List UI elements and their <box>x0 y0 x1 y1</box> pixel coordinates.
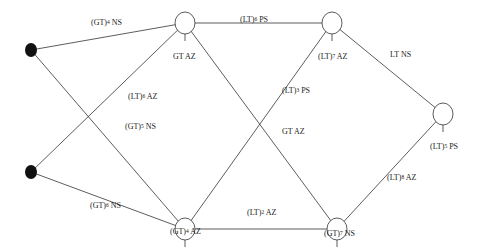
edge-label-d-e: (LT)8 AZ <box>387 173 416 183</box>
node-label-e: (LT)5 PS <box>430 142 458 152</box>
edge-label-b-c: (LT)3 PS <box>282 86 310 96</box>
edge-d-e <box>337 114 443 229</box>
edge-label-c-e: LT NS <box>390 50 411 60</box>
edge-label-s1-a: (GT)4 NS <box>91 18 122 28</box>
edge-b-c <box>185 23 332 229</box>
state-node-e <box>433 103 453 125</box>
node-label-d: (GT)7 NS <box>324 229 355 239</box>
node-label-a: GT AZ <box>173 52 196 62</box>
graph-canvas <box>0 0 477 249</box>
edge-label-a-d: GT AZ <box>282 127 305 137</box>
edge-label-b-d: (LT)2 AZ <box>247 208 276 218</box>
edge-c-e <box>332 23 443 114</box>
edge-a-d <box>185 23 337 229</box>
node-label-c: (LT)7 AZ <box>318 52 347 62</box>
state-node-a <box>175 12 195 34</box>
node-label-b: (GT)4 AZ <box>170 227 201 237</box>
source-node-2 <box>25 165 37 179</box>
source-node-1 <box>25 43 37 57</box>
edge-label-s1-b: (GT)5 NS <box>125 122 156 132</box>
edge-s2-a <box>31 23 185 172</box>
edge-label-a-c: (LT)6 PS <box>240 15 268 25</box>
edge-label-s2-b: (GT)6 NS <box>90 201 121 211</box>
edge-label-s2-a: (LT)6 AZ <box>128 92 157 102</box>
state-node-c <box>322 12 342 34</box>
